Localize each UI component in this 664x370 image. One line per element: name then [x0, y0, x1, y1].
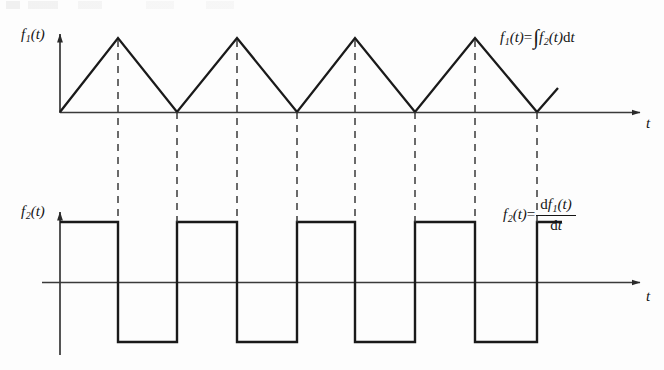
bottom-y-axis-label: f2(t)	[21, 203, 45, 221]
bottom-equation-label: f2(t)= df1(t) dt	[503, 197, 577, 235]
bottom-x-axis-label: t	[646, 288, 650, 305]
top-eq-lhs-arg: (t)	[510, 29, 524, 45]
fraction-numerator: df1(t)	[536, 196, 575, 216]
triangular-wave-curve	[60, 38, 558, 112]
top-eq-differential-var: t	[570, 29, 574, 45]
denominator-d: d	[550, 217, 558, 233]
derivative-fraction: df1(t) dt	[536, 196, 575, 234]
fraction-denominator: dt	[536, 216, 575, 234]
denominator-var: t	[558, 217, 562, 233]
bottom-eq-lhs-arg: (t)	[513, 206, 527, 222]
dashed-connector-group	[118, 40, 537, 222]
bottom-eq-equals: =	[527, 206, 535, 222]
top-y-axis-label-arg: (t)	[31, 26, 45, 42]
bottom-y-axis-label-arg: (t)	[31, 203, 45, 219]
waveform-svg-canvas	[0, 0, 664, 370]
top-y-axis-label: f1(t)	[21, 26, 45, 44]
waveform-figure: f1(t) t f1(t)=∫f2(t)dt f2(t) t f2(t)= df…	[0, 0, 664, 370]
numerator-arg: (t)	[557, 196, 571, 212]
integral-symbol: ∫	[532, 25, 539, 49]
top-equation-label: f1(t)=∫f2(t)dt	[500, 29, 575, 47]
top-eq-integrand-arg: (t)	[549, 29, 563, 45]
top-x-axis-label: t	[646, 115, 650, 132]
numerator-d: d	[540, 196, 548, 212]
